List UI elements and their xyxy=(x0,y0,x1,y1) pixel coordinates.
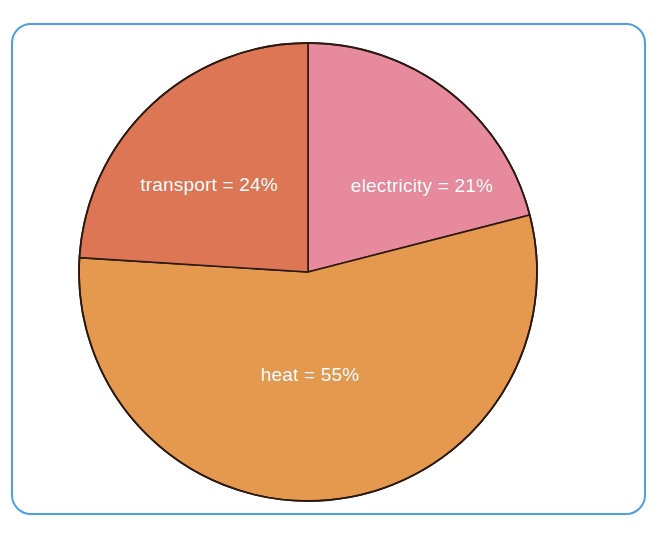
pie-slice-transport xyxy=(79,43,308,272)
pie-slices-group xyxy=(79,43,537,501)
pie-chart: electricity = 21% heat = 55% transport =… xyxy=(0,0,661,534)
figure-root: electricity = 21% heat = 55% transport =… xyxy=(0,0,661,534)
pie-chart-svg xyxy=(0,0,661,534)
